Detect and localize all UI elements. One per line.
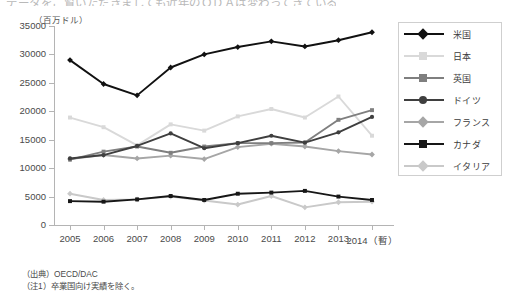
legend-marker-square-icon xyxy=(419,52,427,60)
data-point xyxy=(169,122,173,126)
legend-item-米国[interactable]: 米国 xyxy=(399,23,501,45)
data-point xyxy=(236,192,240,196)
legend-swatch-square-icon xyxy=(404,72,444,84)
series-line xyxy=(70,32,372,95)
series-line xyxy=(70,191,372,202)
data-point xyxy=(303,189,307,193)
legend-marker-square-icon xyxy=(419,140,427,148)
legend-swatch-diamond-icon xyxy=(404,160,444,172)
data-point xyxy=(370,115,374,119)
chart-legend: 米国日本英国ドイツフランスカナダイタリア xyxy=(398,22,502,176)
data-point xyxy=(235,44,241,50)
data-point xyxy=(202,198,206,202)
data-point xyxy=(135,197,139,201)
legend-marker-circle-icon xyxy=(419,96,427,104)
legend-label: 日本 xyxy=(453,50,472,63)
legend-swatch-square-icon xyxy=(404,50,444,62)
legend-marker-diamond-icon xyxy=(417,28,428,39)
data-point xyxy=(336,37,342,43)
data-point xyxy=(370,134,374,138)
data-point xyxy=(202,146,206,150)
legend-marker-square-icon xyxy=(419,74,427,82)
data-point xyxy=(336,118,340,122)
series-カナダ xyxy=(68,189,374,204)
data-point xyxy=(169,131,173,135)
data-point xyxy=(68,116,72,120)
legend-marker-diamond-icon xyxy=(417,160,428,171)
data-point xyxy=(303,116,307,120)
series-line xyxy=(70,97,372,146)
legend-swatch-circle-icon xyxy=(404,94,444,106)
data-point xyxy=(336,95,340,99)
data-point xyxy=(370,108,374,112)
data-point xyxy=(67,191,73,197)
data-point xyxy=(269,191,273,195)
data-point xyxy=(336,195,340,199)
data-point xyxy=(269,134,273,138)
data-point xyxy=(236,141,240,145)
legend-marker-diamond-icon xyxy=(417,116,428,127)
data-point xyxy=(169,151,173,155)
chart-page: データをご覧いただきましても近年のＯＤＡは変わってきている。 （百万ドル） 05… xyxy=(0,0,510,301)
data-point xyxy=(201,52,207,58)
data-point xyxy=(303,140,307,144)
data-point xyxy=(369,152,375,158)
legend-item-カナダ[interactable]: カナダ xyxy=(399,133,501,155)
data-point xyxy=(336,199,342,205)
series-米国 xyxy=(67,29,375,98)
data-point xyxy=(269,141,273,145)
data-point xyxy=(135,144,139,148)
data-point xyxy=(102,125,106,129)
legend-label: フランス xyxy=(453,116,490,129)
chart-footnotes: （出典）OECD/DAC （注1）卒業国向け実績を除く。 xyxy=(22,268,139,292)
legend-swatch-square-icon xyxy=(404,138,444,150)
legend-label: カナダ xyxy=(453,138,481,151)
data-point xyxy=(134,156,140,162)
data-point xyxy=(268,38,274,44)
data-point xyxy=(68,199,72,203)
data-point xyxy=(235,202,241,208)
legend-item-日本[interactable]: 日本 xyxy=(399,45,501,67)
data-point xyxy=(68,156,72,160)
series-日本 xyxy=(68,95,374,148)
data-point xyxy=(370,198,374,202)
data-point xyxy=(102,200,106,204)
legend-label: イタリア xyxy=(453,160,490,173)
legend-item-イタリア[interactable]: イタリア xyxy=(399,155,501,177)
legend-label: 米国 xyxy=(453,28,472,41)
legend-swatch-diamond-icon xyxy=(404,28,444,40)
legend-item-英国[interactable]: 英国 xyxy=(399,67,501,89)
footnote-note1: （注1）卒業国向け実績を除く。 xyxy=(22,280,139,292)
data-point xyxy=(336,130,340,134)
data-point xyxy=(369,29,375,35)
data-point xyxy=(302,204,308,210)
legend-item-ドイツ[interactable]: ドイツ xyxy=(399,89,501,111)
data-point xyxy=(336,148,342,154)
footnote-source: （出典）OECD/DAC xyxy=(22,268,139,280)
data-point xyxy=(169,194,173,198)
legend-item-フランス[interactable]: フランス xyxy=(399,111,501,133)
data-point xyxy=(101,153,105,157)
data-point xyxy=(202,129,206,133)
data-point xyxy=(269,107,273,111)
data-point xyxy=(201,156,207,162)
data-point xyxy=(236,114,240,118)
data-point xyxy=(302,44,308,50)
legend-label: ドイツ xyxy=(453,94,481,107)
legend-swatch-diamond-icon xyxy=(404,116,444,128)
legend-label: 英国 xyxy=(453,72,472,85)
